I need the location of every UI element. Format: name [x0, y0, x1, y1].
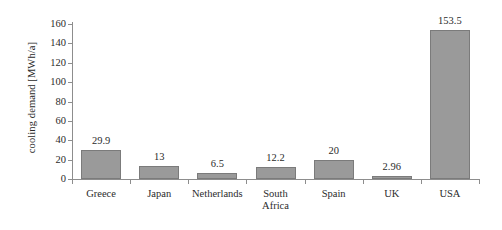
bar: [81, 150, 121, 179]
y-axis-tick-mark: [68, 102, 73, 103]
bar-value-label: 6.5: [187, 159, 247, 170]
x-axis-tick-mark: [188, 179, 189, 184]
y-axis-tick-label: 120: [26, 58, 66, 69]
y-axis-tick-mark: [68, 63, 73, 64]
y-axis-tick-label: 160: [26, 19, 66, 30]
y-axis-tick-mark: [68, 160, 73, 161]
bar-value-label: 2.96: [362, 162, 422, 173]
bar: [314, 160, 354, 179]
y-axis-tick-mark: [68, 121, 73, 122]
bar-value-label: 29.9: [71, 136, 131, 147]
bar: [256, 167, 296, 179]
y-axis-tick-mark: [68, 43, 73, 44]
x-axis-tick-mark: [421, 179, 422, 184]
y-axis-tick-mark: [68, 24, 73, 25]
bar-value-label: 13: [129, 152, 189, 163]
y-axis-tick-label: 20: [26, 155, 66, 166]
y-axis-tick-label: 40: [26, 135, 66, 146]
y-axis-tick-label: 80: [26, 97, 66, 108]
y-axis-tick-label: 60: [26, 116, 66, 127]
y-axis-tick-label: 100: [26, 77, 66, 88]
bar: [197, 173, 237, 179]
x-axis-tick-mark: [305, 179, 306, 184]
y-axis-tick-mark: [68, 82, 73, 83]
bar-value-label: 20: [304, 146, 364, 157]
x-axis-line: [72, 179, 479, 180]
bar-chart: cooling demand [MWh/a] 02040608010012014…: [0, 0, 502, 230]
x-axis-tick-mark: [130, 179, 131, 184]
bar-value-label: 153.5: [420, 16, 480, 27]
y-axis-tick-label: 0: [26, 174, 66, 185]
bar: [372, 176, 412, 179]
bar-value-label: 12.2: [246, 153, 306, 164]
bar: [430, 30, 470, 179]
x-axis-tick-mark: [479, 179, 480, 184]
x-axis-tick-mark: [363, 179, 364, 184]
y-axis-tick-label: 140: [26, 38, 66, 49]
x-axis-tick-mark: [72, 179, 73, 184]
x-axis-tick-mark: [246, 179, 247, 184]
bar: [139, 166, 179, 179]
x-axis-category-label: USA: [415, 188, 485, 200]
